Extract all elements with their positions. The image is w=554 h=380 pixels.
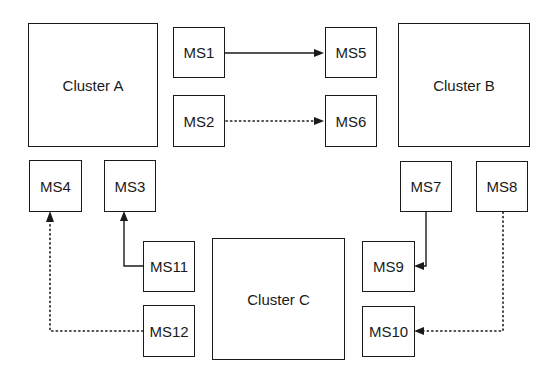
service-ms8-label: MS8 (487, 178, 518, 195)
service-ms2-label: MS2 (184, 113, 215, 130)
service-ms6[interactable]: MS6 (325, 95, 377, 147)
service-ms5[interactable]: MS5 (325, 27, 377, 78)
service-ms4[interactable]: MS4 (29, 160, 82, 212)
cluster-c[interactable]: Cluster C (212, 238, 345, 360)
service-ms3[interactable]: MS3 (104, 160, 156, 212)
arrowhead-up-icon (120, 211, 128, 221)
arrowhead-left-icon (414, 262, 424, 270)
edge-ms7-ms9 (414, 212, 426, 270)
service-ms9[interactable]: MS9 (362, 241, 415, 292)
cluster-a[interactable]: Cluster A (28, 23, 158, 147)
service-ms6-label: MS6 (336, 113, 367, 130)
service-ms2[interactable]: MS2 (173, 95, 225, 147)
service-ms8[interactable]: MS8 (476, 161, 528, 212)
service-ms10-label: MS10 (369, 323, 408, 340)
cluster-b[interactable]: Cluster B (398, 23, 530, 147)
service-ms12[interactable]: MS12 (143, 305, 195, 357)
arrowhead-right-icon (314, 117, 324, 125)
edge-ms8-ms10 (414, 212, 503, 335)
service-ms4-label: MS4 (40, 178, 71, 195)
service-ms5-label: MS5 (336, 44, 367, 61)
cluster-b-label: Cluster B (433, 77, 495, 94)
service-ms12-label: MS12 (149, 323, 188, 340)
service-ms11-label: MS11 (150, 258, 188, 275)
edge-ms11-ms3 (120, 211, 143, 266)
service-ms1-label: MS1 (184, 44, 215, 61)
service-ms7-label: MS7 (411, 178, 442, 195)
service-ms9-label: MS9 (373, 258, 404, 275)
arrowhead-up-icon (46, 211, 54, 222)
edge-ms12-ms4 (46, 211, 143, 331)
arrowhead-right-icon (314, 49, 324, 57)
diagram-canvas: Cluster A Cluster B Cluster C MS1 MS2 MS… (0, 0, 554, 380)
edge-ms2-ms6 (226, 117, 324, 125)
service-ms11[interactable]: MS11 (143, 241, 195, 292)
service-ms10[interactable]: MS10 (362, 306, 415, 357)
edge-ms1-ms5 (225, 49, 324, 57)
service-ms1[interactable]: MS1 (173, 27, 225, 78)
cluster-a-label: Cluster A (63, 77, 124, 94)
service-ms7[interactable]: MS7 (400, 161, 452, 212)
arrowhead-left-icon (414, 327, 424, 335)
cluster-c-label: Cluster C (247, 291, 310, 308)
service-ms3-label: MS3 (115, 178, 146, 195)
